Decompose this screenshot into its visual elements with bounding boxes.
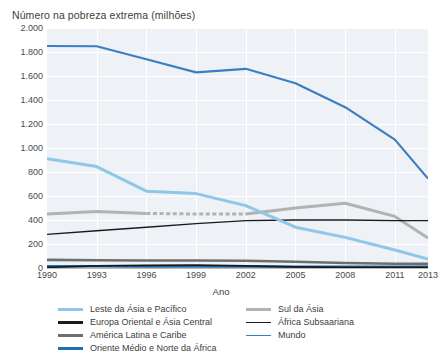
x-axis-tick: 2005 — [285, 270, 305, 280]
legend-item[interactable]: Mundo — [246, 329, 354, 342]
plot-area — [47, 28, 428, 268]
legend-swatch-icon — [246, 308, 271, 311]
legend-swatch-icon — [58, 308, 83, 311]
y-axis-tick: 200 — [28, 239, 43, 249]
legend-item-label: Leste da Ásia e Pacífico — [90, 305, 187, 314]
legend-item-label: América Latina e Caribe — [90, 331, 187, 340]
x-axis-tick: 1993 — [87, 270, 107, 280]
legend-item-label: Sul da Ásia — [278, 305, 324, 314]
legend-swatch-icon — [58, 347, 83, 350]
y-axis-tick: 2.000 — [20, 23, 43, 33]
legend-swatch-icon — [58, 321, 83, 324]
legend-item-label: África Subsaariana — [278, 318, 354, 327]
legend-column-right: Sul da ÁsiaÁfrica SubsaarianaMundo — [246, 303, 354, 342]
legend-item[interactable]: Oriente Médio e Norte da África — [58, 342, 217, 355]
series-line — [47, 220, 428, 234]
series-line — [47, 260, 428, 264]
legend-column-left: Leste da Ásia e PacíficoEuropa Oriental … — [58, 303, 217, 355]
series-lines — [47, 28, 428, 268]
x-axis-tick: 1999 — [186, 270, 206, 280]
y-axis-tick: 600 — [28, 191, 43, 201]
x-axis: 199019931996199920022005200820112013 — [47, 270, 428, 284]
y-axis: 02004006008001.0001.2001.4001.6001.8002.… — [0, 28, 43, 268]
y-axis-tick: 1.400 — [20, 95, 43, 105]
legend-item[interactable]: América Latina e Caribe — [58, 329, 217, 342]
y-axis-tick: 1.800 — [20, 47, 43, 57]
x-axis-tick: 2008 — [335, 270, 355, 280]
x-axis-baseline — [47, 268, 428, 269]
y-axis-tick: 400 — [28, 215, 43, 225]
series-line — [146, 213, 245, 214]
x-axis-label: Ano — [0, 286, 442, 297]
legend-item-label: Oriente Médio e Norte da África — [90, 344, 217, 353]
series-line — [47, 212, 146, 214]
x-axis-tick: 2013 — [418, 270, 438, 280]
legend-item[interactable]: Europa Oriental e Ásia Central — [58, 316, 217, 329]
legend-swatch-icon — [246, 335, 271, 337]
x-axis-tick: 2011 — [385, 270, 404, 280]
series-line — [47, 46, 428, 179]
y-axis-tick: 1.600 — [20, 71, 43, 81]
legend-item[interactable]: Sul da Ásia — [246, 303, 354, 316]
chart-legend: Leste da Ásia e PacíficoEuropa Oriental … — [0, 303, 442, 357]
x-axis-tick: 1996 — [136, 270, 156, 280]
y-axis-tick: 1.200 — [20, 119, 43, 129]
legend-swatch-icon — [58, 334, 83, 337]
legend-swatch-icon — [246, 322, 271, 324]
x-axis-tick: 1990 — [37, 270, 57, 280]
y-axis-tick: 800 — [28, 167, 43, 177]
legend-item[interactable]: Leste da Ásia e Pacífico — [58, 303, 217, 316]
chart-title: Número na pobreza extrema (milhões) — [12, 9, 195, 21]
y-axis-tick: 1.000 — [20, 143, 43, 153]
x-axis-tick: 2002 — [236, 270, 256, 280]
legend-item-label: Mundo — [278, 331, 306, 340]
legend-item[interactable]: África Subsaariana — [246, 316, 354, 329]
legend-item-label: Europa Oriental e Ásia Central — [90, 318, 212, 327]
